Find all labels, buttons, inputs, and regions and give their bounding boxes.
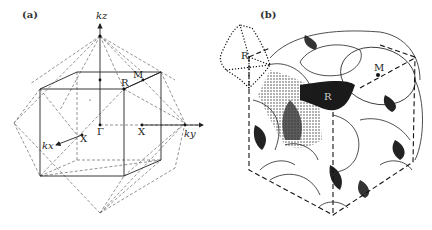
gamma-point-label: Γ xyxy=(97,127,104,137)
x-point-kx-label: X xyxy=(80,134,87,144)
panel-a-brillouin-zone: (a) kz ky kx Γ X X M R xyxy=(0,0,216,230)
panel-b-fermi-surface: (b) R R M xyxy=(216,0,432,230)
fermi-surface-diagram xyxy=(216,0,432,230)
r-left-point-label: R xyxy=(241,51,249,61)
octahedron-edges xyxy=(14,36,200,213)
m-point-label: M xyxy=(374,63,384,73)
brillouin-zone-diagram xyxy=(0,0,216,230)
m-point xyxy=(376,73,380,77)
symmetry-points xyxy=(81,34,187,136)
r-center-point-label: R xyxy=(324,92,332,102)
kx-label: kx xyxy=(42,141,54,151)
kz-label: kz xyxy=(96,11,107,21)
r-point-label: R xyxy=(121,78,129,88)
brillouin-zone-outline xyxy=(249,45,415,215)
fermi-shading xyxy=(254,35,405,198)
ky-label: ky xyxy=(184,129,196,139)
m-point-label: M xyxy=(133,70,143,80)
panel-b-label: (b) xyxy=(260,10,276,20)
panel-a-label: (a) xyxy=(22,10,38,20)
x-point-ky-label: X xyxy=(138,127,145,137)
kx-axis xyxy=(56,135,82,145)
